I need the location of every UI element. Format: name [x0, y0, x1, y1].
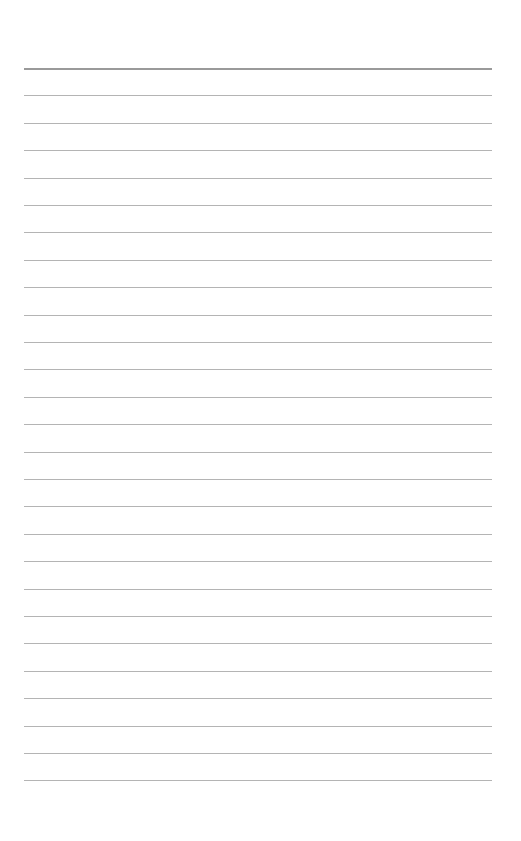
- ruled-line: [24, 452, 492, 453]
- ruled-line: [24, 780, 492, 781]
- ruled-line: [24, 671, 492, 672]
- ruled-line: [24, 205, 492, 206]
- ruled-line: [24, 315, 492, 316]
- ruled-line: [24, 342, 492, 343]
- ruled-line: [24, 698, 492, 699]
- ruled-line: [24, 178, 492, 179]
- ruled-line: [24, 95, 492, 96]
- ruled-line: [24, 643, 492, 644]
- lined-paper-page: [0, 0, 521, 841]
- ruled-line: [24, 287, 492, 288]
- ruled-line: [24, 561, 492, 562]
- ruled-line: [24, 616, 492, 617]
- ruled-line: [24, 232, 492, 233]
- ruled-line: [24, 506, 492, 507]
- ruled-line: [24, 753, 492, 754]
- ruled-line: [24, 589, 492, 590]
- ruled-line: [24, 726, 492, 727]
- ruled-line: [24, 479, 492, 480]
- ruled-line: [24, 424, 492, 425]
- header-rule-line: [24, 68, 492, 70]
- ruled-line: [24, 123, 492, 124]
- ruled-line: [24, 369, 492, 370]
- ruled-line: [24, 397, 492, 398]
- ruled-line: [24, 150, 492, 151]
- ruled-line: [24, 534, 492, 535]
- ruled-line: [24, 260, 492, 261]
